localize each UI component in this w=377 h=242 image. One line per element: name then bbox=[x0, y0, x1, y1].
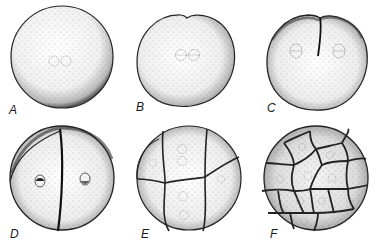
panel-label: F bbox=[270, 228, 277, 240]
panel-label: C bbox=[267, 102, 276, 114]
panel-b: B bbox=[125, 0, 250, 121]
panel-d: D bbox=[0, 121, 125, 242]
two-cell-stage-illustration bbox=[0, 121, 125, 242]
panel-label: A bbox=[9, 104, 17, 116]
panel-c: C bbox=[250, 0, 375, 121]
panel-label: D bbox=[10, 228, 19, 240]
panel-f: F bbox=[250, 121, 375, 242]
panel-label: B bbox=[136, 101, 144, 113]
cleavage-figure: A B bbox=[0, 0, 377, 242]
eight-cell-stage-illustration bbox=[125, 121, 250, 242]
panel-label: E bbox=[141, 228, 149, 240]
egg-uncleaved-illustration bbox=[0, 0, 125, 121]
panel-a: A bbox=[0, 0, 125, 121]
morula-stage-illustration bbox=[250, 121, 375, 242]
panel-e: E bbox=[125, 121, 250, 242]
